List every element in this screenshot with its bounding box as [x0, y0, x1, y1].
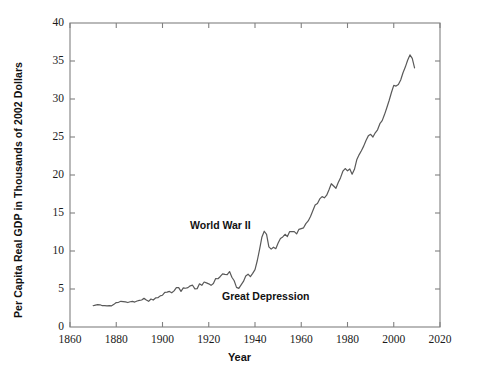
chart-plot-area [0, 0, 479, 379]
axis-ticks [70, 23, 440, 327]
gdp-line-chart: 1860188019001920194019601980200020200510… [0, 0, 479, 379]
annotation-world-war-ii: World War II [190, 220, 251, 231]
y-axis-title-wrap: Per Capita Real GDP in Thousands of 2002… [6, 0, 30, 379]
annotation-great-depression: Great Depression [222, 291, 310, 302]
plot-frame [70, 23, 440, 327]
x-axis-title: Year [0, 352, 479, 363]
data-series-line [93, 55, 414, 306]
y-axis-title: Per Capita Real GDP in Thousands of 2002… [12, 61, 24, 317]
x-tick-label: 2020 [410, 334, 470, 346]
